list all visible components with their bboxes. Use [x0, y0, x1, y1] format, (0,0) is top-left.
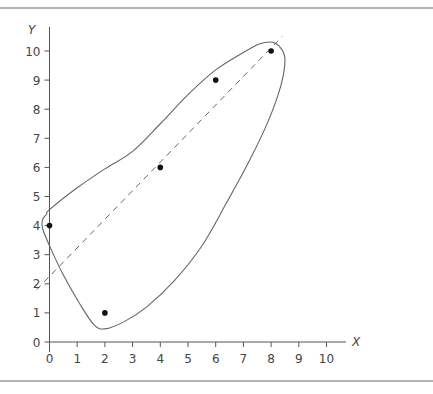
y-tick: 1 [33, 306, 50, 320]
y-tick-label: 6 [33, 161, 41, 175]
axes [50, 27, 347, 352]
x-tick: 3 [129, 342, 137, 366]
x-tick: 2 [101, 342, 109, 366]
y-tick: 3 [33, 248, 50, 262]
data-point [268, 48, 274, 54]
x-tick: 7 [240, 342, 248, 366]
x-tick-label: 9 [295, 352, 303, 366]
data-point [102, 310, 108, 316]
y-axis-title: Y [28, 23, 37, 37]
data-point [158, 165, 164, 171]
y-tick-label: 8 [33, 103, 41, 117]
x-tick-label: 7 [240, 352, 248, 366]
x-tick-label: 6 [212, 352, 220, 366]
x-tick: 0 [46, 342, 54, 366]
y-tick-label: 1 [33, 306, 41, 320]
y-tick-label: 5 [33, 190, 41, 204]
x-tick: 8 [267, 342, 275, 366]
data-points [47, 48, 274, 316]
x-tick-label: 0 [46, 352, 54, 366]
x-tick-label: 8 [267, 352, 275, 366]
y-tick: 8 [33, 103, 50, 117]
x-axis-title: X [351, 335, 361, 349]
x-tick-label: 2 [101, 352, 109, 366]
x-tick: 9 [295, 342, 303, 366]
x-tick-label: 10 [319, 352, 334, 366]
x-tick-label: 5 [184, 352, 192, 366]
y-tick: 0 [33, 336, 50, 350]
y-tick: 6 [33, 161, 50, 175]
y-tick: 7 [33, 132, 50, 146]
data-point [213, 77, 219, 83]
scatter-chart: 012345678910 012345678910 X Y [0, 0, 433, 394]
x-tick: 4 [156, 342, 164, 366]
x-axis-ticks: 012345678910 [46, 342, 334, 366]
y-tick-label: 0 [33, 336, 41, 350]
x-tick: 1 [73, 342, 81, 366]
y-tick-label: 2 [33, 277, 41, 291]
y-tick-label: 4 [33, 219, 41, 233]
x-tick: 6 [212, 342, 220, 366]
fitted-line [37, 36, 283, 289]
x-tick-label: 1 [73, 352, 81, 366]
y-tick: 10 [25, 45, 49, 59]
envelope-curve [42, 42, 285, 329]
y-tick: 9 [33, 74, 50, 88]
x-tick: 5 [184, 342, 192, 366]
x-tick: 10 [319, 342, 334, 366]
y-tick-label: 3 [33, 248, 41, 262]
x-tick-label: 3 [129, 352, 137, 366]
y-tick-label: 10 [25, 45, 40, 59]
data-point [47, 223, 53, 229]
y-axis-ticks: 012345678910 [25, 45, 49, 350]
y-tick-label: 7 [33, 132, 41, 146]
y-tick: 5 [33, 190, 50, 204]
x-tick-label: 4 [156, 352, 164, 366]
y-tick-label: 9 [33, 74, 41, 88]
